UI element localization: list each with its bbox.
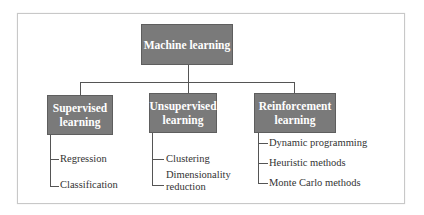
branch-node-unsupervised: Unsupervised learning bbox=[149, 93, 217, 133]
leaf-dynamic-programming: Dynamic programming bbox=[269, 137, 367, 149]
leaf-regression: Regression bbox=[60, 153, 107, 165]
reinforcement-leaf-tick bbox=[258, 143, 268, 144]
branch-label-line2: learning bbox=[163, 113, 204, 127]
root-node-machine-learning: Machine learning bbox=[141, 24, 233, 65]
leaf-reduction: reduction bbox=[166, 181, 206, 193]
branch-label-line1: Reinforcement bbox=[259, 99, 332, 113]
connector-supervised bbox=[80, 82, 81, 95]
supervised-leaf-spine bbox=[50, 135, 51, 186]
root-connector-vertical bbox=[188, 65, 189, 82]
connector-reinforcement bbox=[294, 82, 295, 93]
unsupervised-leaf-tick bbox=[152, 185, 164, 186]
supervised-leaf-tick bbox=[50, 186, 59, 187]
branch-node-supervised: Supervised learning bbox=[47, 95, 113, 135]
reinforcement-leaf-tick bbox=[258, 183, 268, 184]
supervised-leaf-tick bbox=[50, 159, 59, 160]
branch-label-line2: learning bbox=[275, 113, 316, 127]
root-node-label: Machine learning bbox=[144, 38, 231, 52]
leaf-monte-carlo-methods: Monte Carlo methods bbox=[269, 177, 361, 189]
leaf-clustering: Clustering bbox=[166, 153, 210, 165]
leaf-heuristic-methods: Heuristic methods bbox=[269, 157, 346, 169]
branch-label-line1: Supervised bbox=[53, 101, 107, 115]
branch-connector-horizontal bbox=[80, 82, 294, 83]
unsupervised-leaf-tick bbox=[152, 159, 164, 160]
leaf-classification: Classification bbox=[60, 179, 118, 191]
branch-label-line2: learning bbox=[60, 115, 101, 129]
reinforcement-leaf-spine bbox=[258, 133, 259, 183]
reinforcement-leaf-tick bbox=[258, 163, 268, 164]
branch-node-reinforcement: Reinforcement learning bbox=[254, 93, 336, 133]
leaf-dimensionality: Dimensionality bbox=[166, 169, 231, 181]
connector-unsupervised bbox=[188, 82, 189, 93]
branch-label-line1: Unsupervised bbox=[149, 99, 216, 113]
